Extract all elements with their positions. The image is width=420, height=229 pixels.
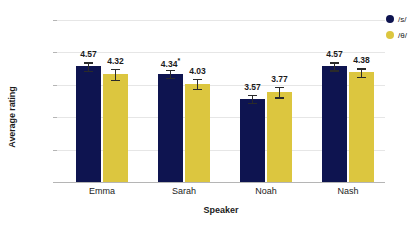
- x-axis-title: Speaker: [57, 205, 385, 215]
- y-axis-tick-mark: [53, 182, 57, 183]
- bar-value-label: 3.77: [260, 74, 300, 84]
- y-axis-tick-mark: [53, 150, 57, 151]
- bar-s-sarah: [158, 74, 183, 182]
- bar-group: 4.574.32: [76, 20, 128, 182]
- error-bar-cap: [193, 79, 202, 80]
- error-bar: [279, 87, 280, 97]
- bar-s-nash: [322, 66, 347, 182]
- bar-θ-nash: [349, 72, 374, 182]
- y-axis-tick-mark: [53, 20, 57, 21]
- error-bar: [197, 79, 198, 89]
- bar-value-label: 4.32: [96, 56, 136, 66]
- legend: /s//θ/: [386, 14, 420, 46]
- bar-s-noah: [240, 99, 265, 182]
- error-bar-cap: [330, 62, 339, 63]
- bar-θ-sarah: [185, 84, 210, 182]
- y-axis-tick-mark: [53, 52, 57, 53]
- legend-item[interactable]: /s/: [386, 14, 420, 24]
- error-bar-cap: [166, 70, 175, 71]
- bar-group: 3.573.77: [240, 20, 292, 182]
- legend-item[interactable]: /θ/: [386, 30, 420, 40]
- bar-value-label: 4.03: [178, 66, 218, 76]
- error-bar-cap: [84, 62, 93, 63]
- error-bar-cap: [275, 97, 284, 98]
- error-bar-cap: [248, 103, 257, 104]
- error-bar-cap: [357, 68, 366, 69]
- y-axis-tick-mark: [53, 85, 57, 86]
- bar-group: 4.34*4.03: [158, 20, 210, 182]
- bar-θ-emma: [103, 74, 128, 182]
- error-bar-cap: [166, 78, 175, 79]
- bar-value-label: 4.38: [342, 55, 382, 65]
- bar-s-emma: [76, 66, 101, 182]
- error-bar-cap: [111, 69, 120, 70]
- bar-θ-noah: [267, 92, 292, 182]
- error-bar-cap: [275, 87, 284, 88]
- x-axis-label-noah: Noah: [231, 186, 301, 196]
- legend-swatch-icon: [386, 15, 394, 23]
- y-axis-title: Average rating: [7, 67, 17, 167]
- error-bar-cap: [111, 80, 120, 81]
- legend-label: /s/: [398, 15, 406, 24]
- x-axis-line: [57, 182, 385, 183]
- legend-label: /θ/: [398, 31, 407, 40]
- x-axis-label-emma: Emma: [67, 186, 137, 196]
- error-bar-cap: [357, 77, 366, 78]
- y-axis-tick-mark: [53, 117, 57, 118]
- significance-marker: *: [177, 57, 180, 64]
- error-bar-cap: [248, 95, 257, 96]
- error-bar: [115, 69, 116, 80]
- legend-swatch-icon: [386, 31, 394, 39]
- x-axis-label-sarah: Sarah: [149, 186, 219, 196]
- error-bar-cap: [330, 70, 339, 71]
- error-bar-cap: [193, 89, 202, 90]
- x-axis-label-nash: Nash: [313, 186, 383, 196]
- plot-area: 6.005.004.003.002.001.00 4.574.324.34*4.…: [57, 20, 385, 182]
- bar-chart: Average rating 6.005.004.003.002.001.00 …: [0, 0, 420, 229]
- bar-group: 4.574.38: [322, 20, 374, 182]
- error-bar-cap: [84, 71, 93, 72]
